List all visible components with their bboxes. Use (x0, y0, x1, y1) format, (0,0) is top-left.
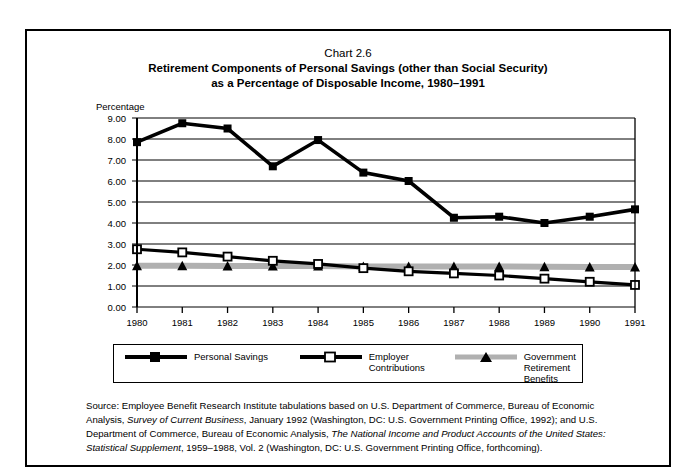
chart-number: Chart 2.6 (25, 46, 671, 61)
legend-item: Personal Savings (113, 351, 300, 363)
chart-title-line-2: as a Percentage of Disposable Income, 19… (25, 76, 671, 91)
legend-label: Personal Savings (194, 351, 268, 362)
source-suffix: , 1959–1988, Vol. 2 (Washington, DC: U.S… (181, 442, 543, 453)
open-square-marker (300, 351, 362, 363)
source-italic-1: Survey of Current Business (127, 414, 244, 425)
y-axis-title: Percentage (96, 101, 145, 112)
legend-item: Government Retirement Benefits (455, 351, 583, 384)
triangle-marker (455, 351, 517, 363)
source-note: Source: Employee Benefit Research Instit… (86, 399, 626, 455)
legend-label: Government Retirement Benefits (524, 351, 583, 384)
legend-item: Employer Contributions (300, 351, 455, 373)
chart-title-line-1: Retirement Components of Personal Saving… (25, 61, 671, 76)
legend-label: Employer Contributions (369, 351, 425, 373)
legend: Personal SavingsEmployer ContributionsGo… (113, 344, 583, 383)
chart-title-block: Chart 2.6 Retirement Components of Perso… (25, 46, 671, 91)
filled-square-marker (125, 351, 187, 363)
chart-page: Chart 2.6 Retirement Components of Perso… (0, 0, 693, 473)
